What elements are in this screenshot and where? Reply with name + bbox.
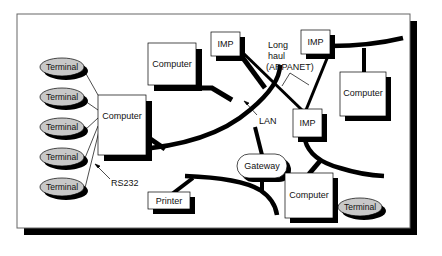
imp-top-right[interactable]: IMP [301, 30, 335, 59]
terminal-label: Terminal [46, 182, 78, 192]
long-haul-label-2: haul [268, 51, 285, 61]
computer-label: Computer [102, 111, 142, 121]
computer-right[interactable]: Computer [340, 72, 391, 121]
terminal-label: Terminal [46, 152, 78, 162]
terminal-label: Terminal [344, 202, 376, 212]
terminal-label: Terminal [46, 92, 78, 102]
printer[interactable]: Printer [148, 192, 195, 214]
computer-left[interactable]: Computer [98, 95, 152, 161]
imp-label: IMP [299, 118, 315, 128]
computer-label: Computer [343, 88, 383, 98]
network-diagram: Terminal Terminal Terminal Terminal Term… [0, 0, 442, 256]
gateway[interactable]: Gateway [237, 154, 291, 182]
terminal-label: Terminal [46, 62, 78, 72]
terminal-label: Terminal [46, 122, 78, 132]
printer-label: Printer [156, 196, 183, 206]
lan-label: LAN [259, 116, 277, 126]
imp-label: IMP [307, 37, 323, 47]
long-haul-label-1: Long [268, 40, 288, 50]
computer-bottom[interactable]: Computer [285, 173, 338, 223]
computer-label: Computer [289, 190, 329, 200]
rs232-label: RS232 [111, 178, 139, 188]
computer-label: Computer [152, 59, 192, 69]
computer-top[interactable]: Computer [148, 43, 202, 91]
imp-label: IMP [217, 39, 233, 49]
imp-middle[interactable]: IMP [293, 109, 327, 142]
imp-top-left[interactable]: IMP [211, 32, 245, 61]
gateway-label: Gateway [244, 161, 280, 171]
long-haul-label-3: (ARPANET) [266, 62, 314, 72]
